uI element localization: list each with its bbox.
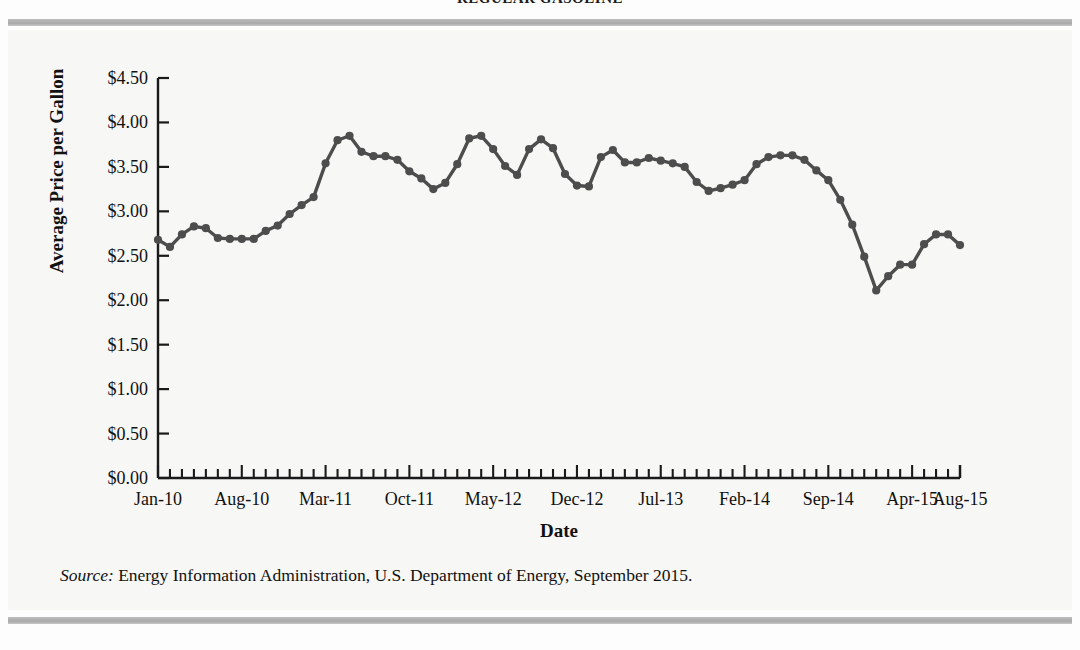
data-point	[178, 230, 186, 238]
data-point	[381, 152, 389, 160]
data-point	[860, 253, 868, 261]
data-point	[669, 159, 677, 167]
data-point	[310, 193, 318, 201]
data-point	[705, 187, 713, 195]
data-point	[321, 159, 329, 167]
data-point	[405, 167, 413, 175]
data-point	[932, 230, 940, 238]
data-point	[776, 151, 784, 159]
data-point	[728, 181, 736, 189]
data-point	[812, 166, 820, 174]
data-point	[561, 170, 569, 178]
data-point	[333, 136, 341, 144]
data-point	[609, 146, 617, 154]
data-point	[429, 185, 437, 193]
data-point	[717, 184, 725, 192]
data-point	[501, 162, 509, 170]
data-point	[154, 236, 162, 244]
data-point	[274, 221, 282, 229]
data-point	[824, 176, 832, 184]
data-point	[752, 160, 760, 168]
data-point	[848, 221, 856, 229]
data-point	[166, 243, 174, 251]
data-point	[549, 144, 557, 152]
data-point	[740, 176, 748, 184]
data-point	[681, 163, 689, 171]
data-point	[238, 235, 246, 243]
data-point	[417, 174, 425, 182]
data-point	[597, 153, 605, 161]
plot-area: Average Price per Gallon Date $0.00$0.50…	[0, 0, 1080, 650]
data-point	[477, 132, 485, 140]
data-point	[645, 154, 653, 162]
data-point	[920, 240, 928, 248]
data-point	[657, 157, 665, 165]
data-point	[262, 227, 270, 235]
source-text: Energy Information Administration, U.S. …	[114, 565, 693, 585]
data-point	[525, 145, 533, 153]
data-point	[250, 235, 258, 243]
data-point	[800, 156, 808, 164]
data-point	[956, 241, 964, 249]
data-point	[513, 171, 521, 179]
data-point	[441, 179, 449, 187]
data-point	[872, 286, 880, 294]
data-series-group	[154, 132, 964, 295]
data-point	[345, 132, 353, 140]
data-point	[286, 210, 294, 218]
data-point	[585, 182, 593, 190]
data-line	[158, 136, 960, 291]
data-point	[489, 145, 497, 153]
data-point	[190, 222, 198, 230]
data-point	[633, 158, 641, 166]
axes-group	[158, 78, 960, 478]
data-point	[298, 201, 306, 209]
data-point	[788, 151, 796, 159]
data-point	[226, 235, 234, 243]
source-label: Source:	[60, 565, 114, 585]
data-point	[836, 196, 844, 204]
data-point	[357, 148, 365, 156]
line-chart-svg	[0, 0, 1080, 650]
data-point	[537, 135, 545, 143]
data-point	[896, 261, 904, 269]
data-point	[453, 160, 461, 168]
data-point	[369, 152, 377, 160]
data-point	[202, 224, 210, 232]
data-point	[884, 272, 892, 280]
data-point	[944, 230, 952, 238]
data-point	[621, 158, 629, 166]
figure-container: REGULAR GASOLINE Average Price per Gallo…	[0, 0, 1080, 650]
data-point	[764, 153, 772, 161]
data-point	[214, 234, 222, 242]
data-point	[693, 178, 701, 186]
data-point	[465, 134, 473, 142]
data-point	[573, 181, 581, 189]
source-note: Source: Energy Information Administratio…	[60, 565, 692, 586]
data-point	[908, 261, 916, 269]
data-point	[393, 156, 401, 164]
